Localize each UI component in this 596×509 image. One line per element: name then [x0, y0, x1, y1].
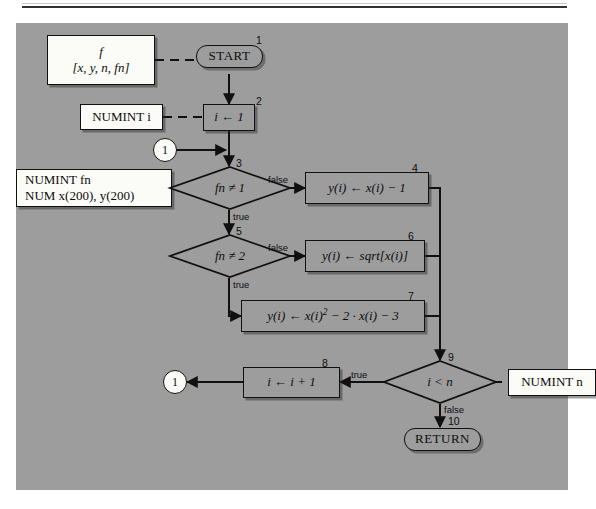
- edge-label-fn2-false: false: [268, 242, 288, 253]
- edge-label-loop-false: false: [444, 404, 464, 415]
- initialize-i-process: i ← 1: [203, 104, 255, 131]
- increment-i-process: i ← i + 1: [243, 367, 340, 398]
- parameter-declaration-box: f [x, y, n, fn]: [47, 35, 155, 85]
- numint-fn-line-1: NUMINT fn: [25, 172, 91, 188]
- edge-label-fn2-true: true: [233, 279, 249, 290]
- edge-label-fn1-true: true: [233, 211, 249, 222]
- parameter-box-line-2: [x, y, n, fn]: [72, 60, 129, 76]
- decision-fn-not-equal-2: fn ≠ 2: [169, 234, 291, 278]
- decision-fn-not-equal-1: fn ≠ 1: [169, 166, 291, 210]
- edge-label-loop-true: true: [351, 369, 367, 380]
- numint-n-declaration-box: NUMINT n: [508, 369, 596, 396]
- step-number-2: 2: [256, 95, 262, 107]
- compute-quadratic-process: y(i) ← x(i)2 − 2 · x(i) − 3: [241, 300, 425, 332]
- numint-fn-declaration-box: NUMINT fn NUM x(200), y(200): [16, 169, 172, 207]
- increment-i-label: i ← i + 1: [267, 374, 316, 390]
- initialize-i-label: i ← 1: [214, 109, 244, 125]
- decision-fn2-label: fn ≠ 2: [215, 248, 245, 264]
- numint-n-label: NUMINT n: [521, 374, 583, 390]
- page-header-rule: [22, 6, 567, 8]
- compute-linear-label: y(i) ← x(i) − 1: [328, 180, 405, 196]
- return-terminal-label: RETURN: [415, 431, 470, 447]
- compute-quadratic-label-post: − 2 · x(i) − 3: [327, 309, 398, 324]
- compute-sqrt-label: y(i) ← sqrt[x(i)]: [322, 248, 408, 264]
- flowchart-figure-panel: [16, 23, 568, 490]
- numint-fn-line-2: NUM x(200), y(200): [25, 188, 134, 204]
- parameter-box-line-1: f: [99, 44, 103, 60]
- compute-sqrt-process: y(i) ← sqrt[x(i)]: [305, 240, 425, 272]
- decision-i-less-than-n: i < n: [383, 360, 497, 404]
- step-number-1: 1: [256, 34, 262, 46]
- page-header-rule-faint: [22, 3, 567, 4]
- decision-loop-label: i < n: [427, 374, 452, 390]
- step-number-10: 10: [448, 415, 460, 427]
- edge-label-fn1-false: false: [268, 174, 288, 185]
- connector-entry-label: 1: [162, 143, 168, 158]
- compute-quadratic-label-pre: y(i) ← x(i): [267, 309, 323, 324]
- numint-i-declaration-box: NUMINT i: [80, 104, 163, 130]
- return-terminal: RETURN: [404, 428, 481, 451]
- connector-exit-label: 1: [172, 375, 178, 390]
- connector-circle-1-entry: 1: [153, 138, 177, 162]
- start-terminal-label: START: [209, 48, 251, 64]
- connector-circle-1-exit: 1: [163, 370, 187, 394]
- compute-linear-process: y(i) ← x(i) − 1: [305, 172, 429, 204]
- start-terminal: START: [196, 45, 263, 68]
- decision-fn1-label: fn ≠ 1: [215, 180, 245, 196]
- numint-i-label: NUMINT i: [92, 109, 151, 125]
